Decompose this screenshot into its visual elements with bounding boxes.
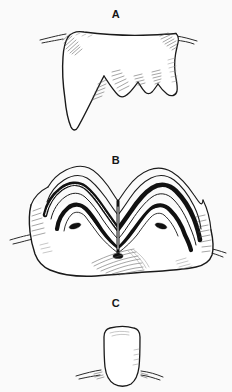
panel-c: C bbox=[0, 290, 232, 392]
gumline-left-a bbox=[40, 34, 66, 43]
panel-b: B bbox=[0, 145, 232, 290]
gumline-right-c bbox=[141, 371, 163, 380]
figure-plate: A bbox=[0, 0, 232, 392]
molar-occlusal-zigzag-icon bbox=[0, 145, 232, 290]
tooth-crown-pointed-icon bbox=[0, 0, 232, 145]
crown-body-c bbox=[104, 327, 140, 387]
crown-body-a bbox=[63, 32, 179, 130]
tooth-crown-rounded-icon bbox=[0, 290, 232, 392]
panel-a: A bbox=[0, 0, 232, 145]
gumline-left-c bbox=[76, 370, 101, 379]
